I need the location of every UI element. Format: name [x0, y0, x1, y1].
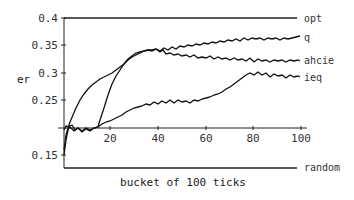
- ieq-label: ieq: [304, 72, 322, 83]
- random-label: random: [304, 162, 340, 173]
- y-tick-label: 0.15: [32, 149, 59, 162]
- q-label: q: [304, 32, 310, 43]
- opt-label: opt: [304, 13, 322, 24]
- x-tick-label: 60: [199, 132, 212, 145]
- y-tick-label: 0.25: [32, 94, 59, 107]
- y-axis-title: er: [17, 73, 31, 86]
- series-ahcie-line: [64, 49, 300, 150]
- x-tick-label: 100: [291, 132, 311, 145]
- x-tick-label: 20: [103, 132, 116, 145]
- y-tick-label: 0.4: [38, 12, 58, 25]
- chart: 0.4 0.35 0.3 0.25 0.15 er opt 20 40 60 8…: [0, 0, 354, 200]
- series-q-line: [64, 36, 300, 155]
- ahcie-label: ahcie: [304, 55, 334, 66]
- x-tick-label: 80: [246, 132, 259, 145]
- y-tick-label: 0.35: [32, 39, 59, 52]
- x-tick-label: 40: [151, 132, 164, 145]
- y-tick-label: 0.3: [38, 67, 58, 80]
- x-axis-title: bucket of 100 ticks: [120, 176, 246, 189]
